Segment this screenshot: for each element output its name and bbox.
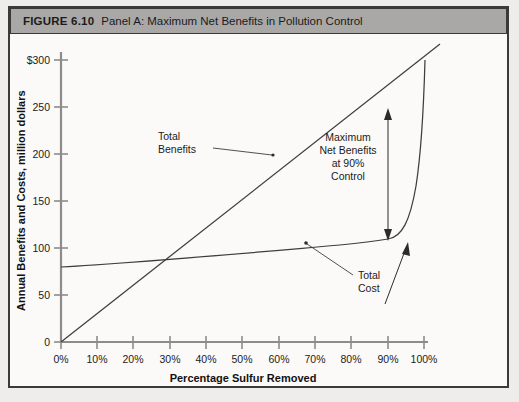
max-net-benefits-line4: Control bbox=[331, 170, 365, 182]
y-tick-label-0: 0 bbox=[44, 336, 50, 348]
y-tick-label-150: 150 bbox=[32, 195, 50, 207]
x-tick-label-90: 90% bbox=[377, 353, 398, 365]
x-axis-title: Percentage Sulfur Removed bbox=[170, 372, 317, 384]
total-benefits-line bbox=[61, 44, 440, 342]
x-tick-label-10: 10% bbox=[86, 353, 107, 365]
x-tick-label-100: 100% bbox=[411, 353, 438, 365]
x-tick-label-0: 0% bbox=[53, 353, 68, 365]
total-benefits-leader-dot bbox=[271, 153, 274, 156]
total-cost-label-line2: Cost bbox=[358, 282, 380, 294]
y-axis: $300 250 200 150 100 50 0 Annual Benefit… bbox=[15, 52, 68, 348]
x-axis: 0% 10% 20% 30% 40% 50% 60% 70% 80% 90% 1… bbox=[53, 336, 437, 384]
y-tick-label-250: 250 bbox=[32, 101, 50, 113]
cost-curve-pointer-arrow bbox=[385, 242, 410, 304]
max-net-benefits-line1: Maximum bbox=[325, 131, 371, 143]
plot-area: $300 250 200 150 100 50 0 Annual Benefit… bbox=[10, 36, 507, 386]
annotation-maximum-net-benefits: Maximum Net Benefits at 90% Control bbox=[319, 131, 376, 182]
x-tick-label-40: 40% bbox=[195, 353, 216, 365]
figure-caption: Panel A: Maximum Net Benefits in Polluti… bbox=[101, 15, 362, 27]
x-tick-label-50: 50% bbox=[231, 353, 252, 365]
max-net-benefits-line2: Net Benefits bbox=[319, 144, 376, 156]
y-tick-label-300: $300 bbox=[27, 54, 51, 66]
total-cost-curve bbox=[61, 60, 425, 267]
x-tick-label-80: 80% bbox=[340, 353, 361, 365]
annotation-total-cost: Total Cost bbox=[304, 241, 380, 294]
figure-container: FIGURE 6.10 Panel A: Maximum Net Benefit… bbox=[0, 0, 519, 402]
max-net-benefits-line3: at 90% bbox=[332, 157, 365, 169]
total-cost-leader bbox=[307, 244, 353, 275]
x-tick-label-20: 20% bbox=[122, 353, 143, 365]
y-tick-label-50: 50 bbox=[38, 289, 50, 301]
total-cost-leader-dot bbox=[304, 241, 308, 245]
y-tick-label-100: 100 bbox=[32, 242, 50, 254]
cost-pointer-shaft bbox=[385, 248, 406, 304]
y-tick-label-200: 200 bbox=[32, 148, 50, 160]
x-tick-label-70: 70% bbox=[304, 353, 325, 365]
chart-svg: $300 250 200 150 100 50 0 Annual Benefit… bbox=[10, 36, 507, 386]
x-tick-label-60: 60% bbox=[268, 353, 289, 365]
dimension-arrow-up bbox=[384, 108, 392, 120]
x-tick-label-30: 30% bbox=[159, 353, 180, 365]
y-axis-title: Annual Benefits and Costs, million dolla… bbox=[15, 90, 27, 311]
figure-header-band: FIGURE 6.10 Panel A: Maximum Net Benefit… bbox=[10, 8, 507, 34]
total-cost-label-line1: Total bbox=[358, 269, 380, 281]
total-benefits-label-line1: Total bbox=[158, 130, 180, 142]
total-benefits-leader bbox=[213, 148, 272, 155]
annotation-total-benefits: Total Benefits bbox=[158, 130, 275, 157]
cost-pointer-arrowhead bbox=[402, 242, 410, 256]
net-benefits-dimension-arrow bbox=[384, 108, 392, 241]
total-benefits-label-line2: Benefits bbox=[158, 143, 196, 155]
figure-number-label: FIGURE 6.10 bbox=[23, 15, 94, 27]
